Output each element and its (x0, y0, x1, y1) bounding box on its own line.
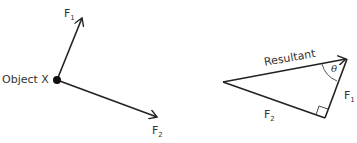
force1-vector (57, 18, 82, 80)
object-x-dot (53, 76, 61, 84)
theta-label: θ (331, 63, 337, 74)
object-x-label: Object X (2, 73, 49, 86)
f2-label: F2 (152, 124, 163, 139)
triangle-f2-label: F2 (264, 108, 275, 123)
force2-vector (57, 80, 157, 117)
vector-diagram (0, 0, 357, 143)
triangle-f1-label: F1 (344, 89, 355, 104)
f1-label: F1 (64, 7, 75, 22)
